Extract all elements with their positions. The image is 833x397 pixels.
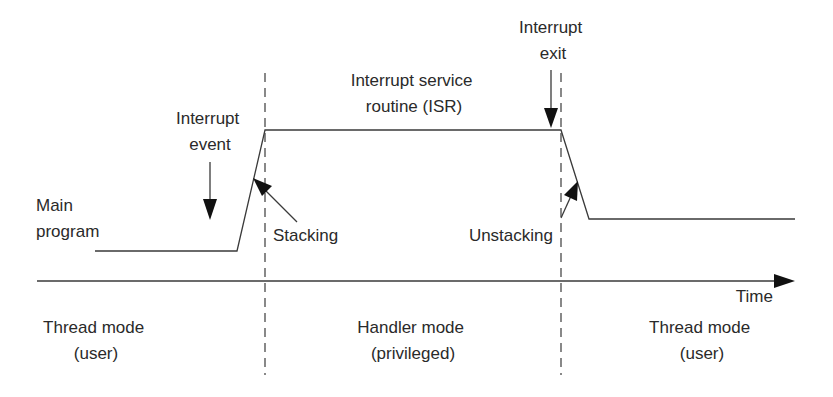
time-axis-arrowhead-icon (774, 274, 795, 288)
interrupt-event-label: Interrupt event (176, 109, 244, 154)
mode-label-thread-user-left: Thread mode (user) (43, 318, 149, 363)
interrupt-timing-diagram: Main program Interrupt event Interrupt s… (0, 0, 833, 397)
stacking-label: Stacking (273, 226, 338, 245)
mode-label-thread-user-right: Thread mode (user) (649, 318, 755, 363)
time-axis-label: Time (736, 287, 773, 306)
isr-label: Interrupt service routine (ISR) (351, 71, 478, 116)
main-program-label: Main program (36, 196, 99, 241)
unstacking-label: Unstacking (469, 226, 553, 245)
mode-label-handler-privileged: Handler mode (privileged) (357, 318, 469, 363)
unstacking-pointer-arrowhead-icon (564, 181, 578, 201)
unstacking-pointer-shaft (561, 196, 571, 218)
interrupt-event-arrowhead-icon (203, 199, 217, 220)
interrupt-exit-label: Interrupt exit (519, 18, 587, 63)
interrupt-exit-arrowhead-icon (544, 108, 558, 128)
stacking-pointer-shaft (265, 190, 297, 222)
